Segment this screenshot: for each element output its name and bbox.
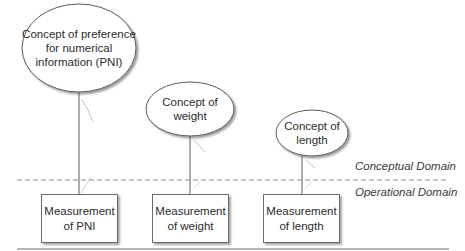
measurement-length-line-1: Measurement	[266, 204, 336, 219]
measurement-pni-line-2: of PNI	[44, 219, 114, 234]
concept-weight-line-2: weight	[148, 109, 232, 123]
measurement-length-line-2: of length	[266, 219, 336, 234]
measurement-pni-box: Measurement of PNI	[41, 194, 118, 243]
measurement-weight-box: Measurement of weight	[152, 194, 229, 243]
operational-domain-label: Operational Domain	[355, 186, 457, 198]
concept-pni-line-3: information (PNI)	[22, 55, 136, 69]
concept-weight-label: Concept of weight	[148, 95, 232, 123]
concept-pni-line-2: for numerical	[22, 41, 136, 55]
faint-stroke-weight-lower	[193, 182, 200, 189]
faint-stroke-length-lower	[305, 182, 311, 189]
faint-stroke-pni-lower	[81, 177, 91, 193]
concept-length-line-1: Concept of	[276, 119, 348, 133]
concept-pni-line-1: Concept of preference	[22, 27, 136, 41]
concept-length-label: Concept of length	[276, 119, 348, 147]
measurement-pni-line-1: Measurement	[44, 204, 114, 219]
measurement-weight-line-2: of weight	[155, 219, 225, 234]
measurement-weight-line-1: Measurement	[155, 204, 225, 219]
conceptual-domain-label: Conceptual Domain	[355, 160, 456, 172]
faint-stroke-length	[306, 160, 315, 168]
faint-stroke-pni	[82, 100, 93, 122]
measurement-length-box: Measurement of length	[263, 194, 340, 243]
faint-stroke-weight	[194, 140, 205, 152]
concept-weight-line-1: Concept of	[148, 95, 232, 109]
concept-pni-label: Concept of preference for numerical info…	[22, 27, 136, 69]
concept-length-line-2: length	[276, 133, 348, 147]
